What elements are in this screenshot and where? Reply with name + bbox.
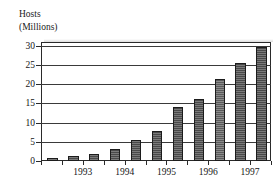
x-axis-tick bbox=[146, 161, 147, 165]
x-axis-tick-label: 1995 bbox=[157, 167, 176, 177]
bar bbox=[47, 158, 57, 161]
bar bbox=[68, 156, 78, 161]
y-axis-tick-label: 15 bbox=[1, 98, 35, 108]
y-axis-tick-label: 30 bbox=[1, 41, 35, 51]
x-axis-tick bbox=[229, 161, 230, 165]
y-axis-labels: 051015202530 bbox=[0, 0, 35, 189]
x-axis-tick bbox=[187, 161, 188, 165]
bar-series bbox=[41, 42, 271, 161]
bar bbox=[110, 149, 120, 161]
x-axis-tick bbox=[166, 161, 167, 165]
bar bbox=[215, 79, 225, 161]
bar bbox=[256, 47, 266, 161]
chart-container: Hosts (Millions) 051015202530 1993199419… bbox=[0, 0, 277, 189]
bar bbox=[173, 107, 183, 161]
y-axis-tick-label: 20 bbox=[1, 79, 35, 89]
x-axis-tick bbox=[104, 161, 105, 165]
x-axis-tick bbox=[250, 161, 251, 165]
x-axis-tick bbox=[125, 161, 126, 165]
y-axis-tick-label: 5 bbox=[1, 137, 35, 147]
x-axis-tick-label: 1993 bbox=[73, 167, 92, 177]
x-axis-tick bbox=[271, 161, 272, 165]
x-axis-tick bbox=[41, 161, 42, 165]
bar bbox=[235, 63, 245, 161]
y-axis-tick-label: 25 bbox=[1, 60, 35, 70]
x-axis-tick-label: 1997 bbox=[241, 167, 260, 177]
x-axis-tick-label: 1994 bbox=[115, 167, 134, 177]
bar bbox=[131, 140, 141, 161]
y-axis-tick-label: 10 bbox=[1, 118, 35, 128]
bar bbox=[194, 99, 204, 161]
x-axis-tick bbox=[83, 161, 84, 165]
bar bbox=[152, 131, 162, 161]
x-axis-tick bbox=[208, 161, 209, 165]
bar bbox=[89, 154, 99, 161]
x-axis-tick-label: 1996 bbox=[199, 167, 218, 177]
x-axis-tick bbox=[62, 161, 63, 165]
y-axis-tick-label: 0 bbox=[1, 156, 35, 166]
